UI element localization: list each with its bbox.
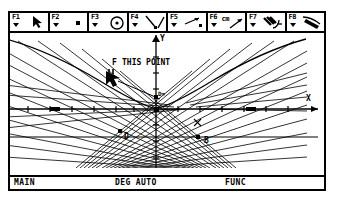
y-axis-label: Y	[160, 35, 165, 43]
toolbar-button-f1-label: F1	[12, 14, 20, 21]
toolbar-button-f6-unit: cm	[222, 16, 230, 23]
status-mode-folder: MAIN	[14, 178, 35, 187]
x-axis-arrow-icon	[311, 106, 318, 112]
leader-line	[118, 81, 160, 99]
point-d-label: D	[124, 133, 129, 141]
toolbar-button-f8-label: F8	[289, 14, 297, 21]
toolbar-button-f4[interactable]: F4	[129, 13, 169, 31]
animate-icon	[262, 15, 284, 31]
calculator-screenshot: F1 F2 F3	[0, 0, 338, 205]
status-bar: MAIN DEG AUTO FUNC	[10, 175, 324, 189]
point-d-marker[interactable]	[118, 129, 122, 133]
toolbar-button-f8[interactable]: F8	[287, 13, 325, 31]
chevron-down-icon	[211, 23, 217, 27]
cursor-pointer-icon[interactable]	[106, 69, 120, 87]
toolbar-button-f5-label: F5	[170, 14, 178, 21]
chevron-down-icon	[92, 23, 98, 27]
point-icon	[70, 15, 86, 29]
this-point-annotation: THIS POINT	[122, 59, 170, 67]
status-graph-mode: FUNC	[225, 178, 246, 187]
chevron-down-icon	[290, 23, 296, 27]
toolbar-button-f7[interactable]: F7	[247, 13, 287, 31]
toolbar-button-f5[interactable]: F5	[168, 13, 208, 31]
toolbar-button-f7-label: F7	[249, 14, 257, 21]
focus-label: F	[112, 59, 117, 67]
toolbar-button-f2-label: F2	[52, 14, 60, 21]
toolbar-button-f2[interactable]: F2	[50, 13, 90, 31]
toolbar: F1 F2 F3	[10, 13, 324, 33]
point-b-marker[interactable]	[196, 135, 200, 139]
chevron-down-icon	[171, 23, 177, 27]
circle-icon	[108, 15, 126, 31]
perpendicular-line-icon	[145, 15, 165, 31]
pointer-arrow-icon	[31, 15, 47, 29]
toolbar-button-f3-label: F3	[91, 14, 99, 21]
chevron-down-icon	[13, 23, 19, 27]
geometry-canvas[interactable]: F THIS POINT D= D B X Y	[10, 33, 324, 168]
calculator-screen-frame: F1 F2 F3	[8, 11, 326, 191]
chevron-down-icon	[250, 23, 256, 27]
x-axis-segment-marker-left	[50, 107, 60, 111]
chevron-down-icon	[132, 23, 138, 27]
x-axis-segment-marker	[246, 107, 256, 111]
vector-measure-icon	[183, 15, 205, 31]
toolbar-button-f6[interactable]: F6 cm	[208, 13, 248, 31]
clear-draw-icon	[301, 15, 323, 31]
toolbar-button-f1[interactable]: F1	[10, 13, 50, 31]
geometry-drawing	[10, 33, 324, 168]
distance-measure-label: D=	[158, 91, 165, 97]
toolbar-button-f6-label: F6	[210, 14, 218, 21]
y-axis-arrow-icon	[152, 35, 160, 42]
status-angle-mode: DEG AUTO	[115, 178, 157, 187]
chevron-down-icon	[53, 23, 59, 27]
toolbar-button-f3[interactable]: F3	[89, 13, 129, 31]
x-axis-label: X	[306, 95, 311, 103]
toolbar-button-f4-label: F4	[131, 14, 139, 21]
origin-marker	[154, 107, 159, 112]
point-b-label: B	[204, 137, 209, 145]
distance-cm-icon	[229, 16, 245, 31]
